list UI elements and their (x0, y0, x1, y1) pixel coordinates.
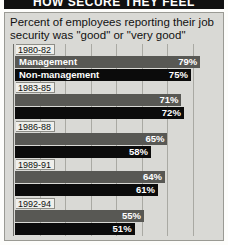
bar-group: 1983-8571%72% (14, 82, 217, 120)
bar-value-label: 71% (159, 94, 178, 106)
bar-value-label: 51% (113, 223, 132, 235)
headline-banner: HOW SECURE THEY FEEL (4, 0, 224, 9)
bar-nonmgmt: 72% (15, 107, 184, 119)
chart-card: Percent of employees reporting their job… (4, 12, 224, 241)
bar-value-label: 75% (169, 69, 188, 81)
bar-value-label: 55% (122, 210, 141, 222)
bar-mgmt: 71% (15, 94, 181, 106)
headline-text: HOW SECURE THEY FEEL (4, 0, 224, 8)
bar-mgmt: 64% (15, 171, 165, 183)
bar-group: 1986-8865%58% (14, 121, 217, 159)
bar-nonmgmt: Non-management75% (15, 69, 191, 81)
bar-nonmgmt: 51% (15, 223, 135, 235)
bar-group: 1980-82Management79%Non-management75% (14, 44, 217, 82)
chart-figure: HOW SECURE THEY FEEL Percent of employee… (0, 0, 228, 245)
bar-value-label: 65% (145, 133, 164, 145)
year-label: 1983-85 (16, 82, 55, 93)
chart-title: Percent of employees reporting their job… (10, 16, 220, 42)
year-label: 1980-82 (16, 44, 55, 55)
bar-group: 1989-9164%61% (14, 159, 217, 197)
series-label: Management (19, 56, 77, 68)
bar-nonmgmt: 61% (15, 184, 158, 196)
year-label: 1986-88 (16, 121, 55, 132)
year-label: 1992-94 (16, 198, 55, 209)
bar-nonmgmt: 58% (15, 146, 151, 158)
bar-value-label: 72% (162, 107, 181, 119)
year-label: 1989-91 (16, 159, 55, 170)
bar-mgmt: 55% (15, 210, 144, 222)
plot-area: 1980-82Management79%Non-management75%198… (13, 44, 217, 236)
bar-mgmt: Management79% (15, 56, 200, 68)
bar-mgmt: 65% (15, 133, 167, 145)
bar-value-label: 58% (129, 146, 148, 158)
bar-value-label: 61% (136, 184, 155, 196)
bar-groups: 1980-82Management79%Non-management75%198… (14, 44, 217, 236)
series-label: Non-management (19, 69, 99, 81)
bar-group: 1992-9455%51% (14, 198, 217, 236)
bar-value-label: 79% (178, 56, 197, 68)
bar-value-label: 64% (143, 171, 162, 183)
